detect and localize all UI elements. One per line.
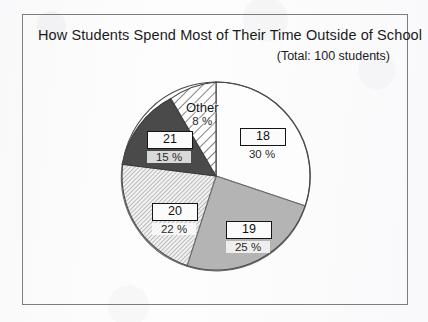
pie-label-21-percent: 15 % [147, 151, 191, 163]
pie-label-other-percent: 8 % [186, 115, 219, 128]
pie-chart [0, 0, 428, 322]
pie-label-18-value: 18 [240, 128, 286, 146]
screenshot-page: How Students Spend Most of Their Time Ou… [0, 0, 428, 322]
pie-label-19[interactable]: 19 25 % [226, 221, 272, 253]
pie-label-21[interactable]: 21 15 % [147, 131, 193, 163]
pie-label-21-value: 21 [147, 131, 193, 149]
pie-label-other-name: Other [186, 101, 219, 115]
pie-label-20[interactable]: 20 22 % [152, 203, 198, 235]
pie-label-19-percent: 25 % [226, 241, 270, 253]
pie-label-20-value: 20 [152, 203, 198, 221]
pie-label-18-percent: 30 % [240, 148, 284, 160]
pie-label-20-percent: 22 % [152, 223, 196, 235]
pie-label-19-value: 19 [226, 221, 272, 239]
pie-label-18[interactable]: 18 30 % [240, 128, 286, 160]
pie-label-other[interactable]: Other 8 % [186, 101, 219, 128]
